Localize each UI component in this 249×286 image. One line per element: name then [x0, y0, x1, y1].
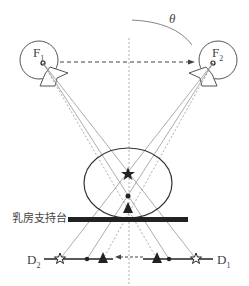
detector-d1-label: D1	[217, 253, 230, 270]
dot-projection-d1	[167, 257, 171, 261]
dot-marker	[126, 194, 131, 199]
angle-arc	[132, 20, 192, 45]
angle-label: θ	[169, 12, 175, 25]
support-label: 乳房支持台	[12, 213, 67, 224]
tomosynthesis-diagram	[0, 0, 249, 286]
arrowhead-icon	[115, 255, 121, 260]
triangle-marker	[123, 202, 133, 213]
triangle-projection-d2	[98, 252, 108, 263]
source-f1-label: F1	[33, 46, 44, 63]
rays-f1	[43, 63, 196, 259]
breast-support-plate	[68, 217, 188, 222]
source-f2-collimator	[189, 67, 217, 86]
dot-projection-d2	[85, 257, 89, 261]
detector-d2-label: D2	[27, 253, 40, 270]
rays-f2	[60, 63, 213, 259]
source-f1-collimator	[40, 67, 68, 86]
arrowhead-icon	[188, 60, 195, 65]
source-f2-label: F2	[212, 46, 223, 63]
